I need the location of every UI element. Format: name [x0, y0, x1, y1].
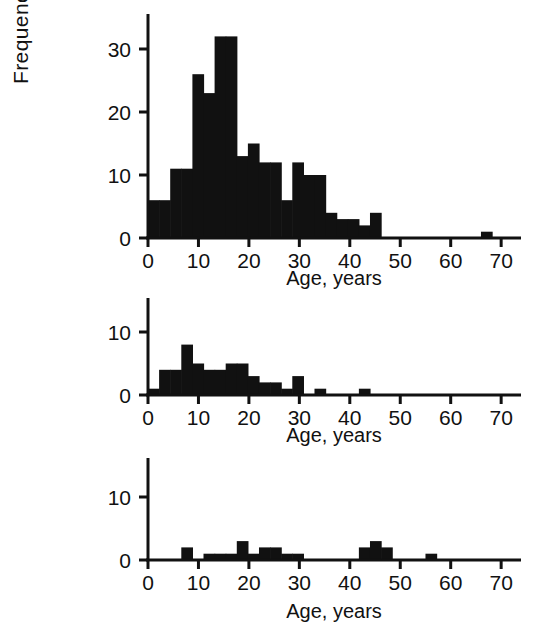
x-axis-tick-label: 0 — [142, 249, 154, 272]
panel-bottom-ytick-labels: 010 — [108, 486, 131, 572]
x-axis-tick-label: 10 — [187, 249, 210, 272]
x-axis-tick-label: 0 — [142, 406, 154, 429]
histogram-bar — [181, 547, 193, 560]
panel-bottom-xaxis-title: Age, years — [286, 600, 382, 622]
histogram-bar — [370, 213, 382, 238]
histogram-bar — [181, 169, 193, 238]
histogram-bar — [170, 370, 182, 395]
histogram-bar — [237, 156, 249, 238]
panel-bottom-svg: 010 010203040506070 Age, years — [0, 450, 533, 624]
panel-top-bars — [148, 36, 493, 238]
panel-top-ytick-labels: 0102030 — [108, 38, 131, 250]
x-axis-tick-label: 10 — [187, 571, 210, 594]
histogram-bar — [259, 547, 271, 560]
histogram-bar — [192, 74, 204, 238]
x-axis-tick-label: 70 — [489, 249, 512, 272]
x-axis-tick-label: 50 — [389, 249, 412, 272]
histogram-bar — [259, 162, 271, 238]
histogram-bar — [292, 162, 304, 238]
panel-top-xaxis-title: Age, years — [286, 267, 382, 289]
histogram-bar — [259, 382, 271, 395]
y-axis-tick-label: 10 — [108, 164, 131, 187]
histogram-panel-bottom: 010 010203040506070 Age, years — [0, 450, 533, 624]
histogram-bar — [348, 219, 360, 238]
histogram-bar — [237, 364, 249, 396]
y-axis-tick-label: 0 — [119, 384, 131, 407]
panel-bottom-xtick-labels: 010203040506070 — [142, 571, 513, 594]
x-axis-tick-label: 20 — [237, 571, 260, 594]
y-axis-tick-label: 0 — [119, 549, 131, 572]
y-axis-tick-label: 10 — [108, 321, 131, 344]
x-axis-tick-label: 70 — [489, 406, 512, 429]
x-axis-tick-label: 0 — [142, 571, 154, 594]
panel-middle-xaxis-title: Age, years — [286, 424, 382, 446]
histogram-bar — [215, 370, 227, 395]
histogram-bar — [170, 169, 182, 238]
histogram-bar — [248, 376, 260, 395]
histogram-bar — [159, 200, 171, 238]
histogram-bar — [314, 175, 326, 238]
histogram-bar — [181, 345, 193, 395]
histogram-bar — [204, 93, 216, 238]
y-axis-tick-label: 30 — [108, 38, 131, 61]
histogram-bar — [326, 213, 338, 238]
panel-middle-bars — [148, 345, 371, 395]
histogram-bar — [215, 36, 227, 238]
histogram-bar — [303, 175, 315, 238]
histogram-bar — [337, 219, 349, 238]
histogram-bar — [192, 364, 204, 396]
panel-middle-svg: 010 010203040506070 Age, years — [0, 290, 533, 450]
panel-bottom-axes — [139, 458, 521, 560]
histogram-bar — [204, 370, 216, 395]
x-axis-tick-label: 60 — [439, 249, 462, 272]
panel-middle-ytick-labels: 010 — [108, 321, 131, 407]
x-axis-tick-label: 70 — [489, 571, 512, 594]
histogram-bar — [148, 200, 160, 238]
histogram-bar — [248, 144, 260, 239]
y-axis-tick-label: 0 — [119, 227, 131, 250]
y-axis-tick-label: 20 — [108, 101, 131, 124]
histogram-bar — [159, 370, 171, 395]
histogram-bar — [270, 382, 282, 395]
histogram-bar — [292, 376, 304, 395]
histogram-bar — [226, 36, 238, 238]
histogram-bar — [281, 200, 293, 238]
histogram-bar — [381, 547, 393, 560]
histogram-bar — [270, 547, 282, 560]
histogram-bar — [226, 364, 238, 396]
x-axis-tick-label: 50 — [389, 571, 412, 594]
x-axis-tick-label: 60 — [439, 571, 462, 594]
histogram-bar — [359, 225, 371, 238]
x-axis-tick-label: 60 — [439, 406, 462, 429]
histogram-panel-middle: 010 010203040506070 Age, years — [0, 290, 533, 450]
histogram-bar — [237, 541, 249, 560]
x-axis-tick-label: 20 — [237, 406, 260, 429]
histogram-bar — [370, 541, 382, 560]
y-axis-tick-label: 10 — [108, 486, 131, 509]
histogram-panel-top: 0102030 010203040506070 Age, years — [0, 0, 533, 290]
histogram-bar — [270, 162, 282, 238]
panel-top-svg: 0102030 010203040506070 Age, years — [0, 0, 533, 290]
panel-bottom-bars — [181, 541, 437, 560]
x-axis-tick-label: 50 — [389, 406, 412, 429]
figure-root: Frequency 0102030 010203040506070 Age, y… — [0, 0, 533, 624]
x-axis-tick-label: 40 — [338, 571, 361, 594]
histogram-bar — [359, 547, 371, 560]
x-axis-tick-label: 20 — [237, 249, 260, 272]
x-axis-tick-label: 30 — [288, 571, 311, 594]
x-axis-tick-label: 10 — [187, 406, 210, 429]
